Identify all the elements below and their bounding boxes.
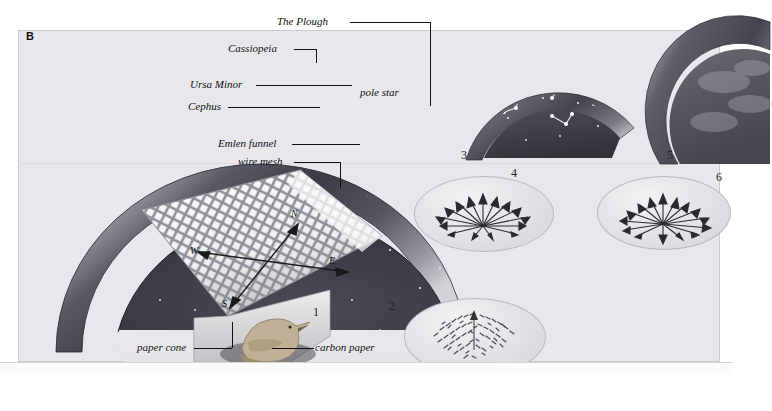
- compass-label-west: W: [190, 245, 198, 256]
- vector-disc-6: [597, 176, 729, 248]
- leader-paper-cone-v: [232, 322, 233, 348]
- leader-the-plough: [350, 22, 430, 23]
- constellation-the-plough: [394, 72, 424, 128]
- leader-carbon-paper: [272, 348, 314, 349]
- number-4: 4: [511, 166, 517, 181]
- label-cephus: Cephus: [188, 100, 221, 112]
- number-6: 6: [716, 170, 722, 185]
- cassiopeia-stars: [276, 56, 339, 75]
- ursa-minor-stars: [314, 74, 355, 104]
- compass-label-north: N: [291, 208, 298, 219]
- constellation-cassiopeia: [278, 58, 336, 72]
- leader-wire-mesh-v: [340, 162, 341, 188]
- bottom-margin: [0, 374, 733, 411]
- pole-star-marker: [350, 95, 357, 102]
- planetarium-dome-5: [652, 4, 772, 164]
- compass-label-south: S: [222, 298, 227, 309]
- leader-cassiopeia: [294, 49, 316, 50]
- disc6-vectors: [597, 176, 729, 248]
- label-the-plough: The Plough: [277, 15, 328, 27]
- leader-emlen-funnel: [292, 144, 360, 145]
- number-1: 1: [313, 305, 319, 320]
- label-paper-cone: paper cone: [137, 341, 186, 353]
- number-3: 3: [461, 148, 467, 163]
- leader-cassiopeia-v: [316, 49, 317, 63]
- label-pole-star: pole star: [360, 86, 399, 98]
- label-wire-mesh: wire mesh: [238, 155, 283, 167]
- label-ursa-minor: Ursa Minor: [190, 78, 242, 90]
- constellation-ursa-minor: [316, 76, 352, 102]
- compass-label-east: E: [329, 255, 335, 266]
- number-5: 5: [667, 148, 673, 163]
- leader-ursa-minor: [256, 85, 352, 86]
- label-carbon-paper: carbon paper: [315, 341, 375, 353]
- horizon-band: [0, 363, 733, 374]
- label-cassiopeia: Cassiopeia: [228, 42, 277, 54]
- leader-cephus: [228, 107, 320, 108]
- disc4-vectors: [414, 176, 552, 250]
- plough-stars: [392, 70, 427, 131]
- leader-paper-cone: [194, 348, 232, 349]
- number-2: 2: [389, 299, 395, 314]
- leader-wire-mesh: [294, 162, 340, 163]
- label-emlen-funnel: Emlen funnel: [218, 137, 276, 149]
- vector-disc-4: [414, 176, 552, 250]
- planetarium-dome-3: [448, 8, 638, 168]
- leader-the-plough-v: [430, 22, 431, 106]
